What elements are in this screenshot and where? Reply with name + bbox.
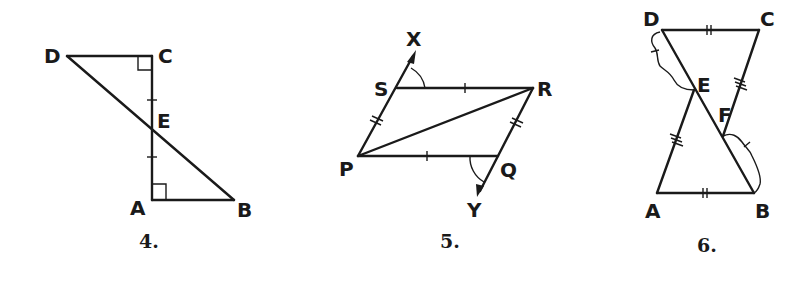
tick-mark-brace-eb xyxy=(744,142,750,147)
arrow-y-icon xyxy=(476,184,484,197)
label-y: Y xyxy=(466,198,482,222)
segment-db xyxy=(67,56,234,200)
triple-tick-cf xyxy=(734,78,747,90)
geometry-figures: D C E A B 4. X S R P Q Y 5. xyxy=(0,0,801,283)
label-c: C xyxy=(158,44,173,68)
segment-ae xyxy=(657,90,694,193)
label-p: P xyxy=(339,157,354,181)
angle-arc-pqy-icon xyxy=(470,156,484,182)
label-b: B xyxy=(237,198,252,222)
figure-number: 6. xyxy=(697,234,717,256)
arrow-x-icon xyxy=(407,50,416,64)
right-angle-a-icon xyxy=(152,184,166,200)
label-c: C xyxy=(760,7,775,31)
tick-mark-brace-df xyxy=(651,50,659,52)
label-a: A xyxy=(645,199,661,223)
label-r: R xyxy=(537,77,552,101)
brace-eb-icon xyxy=(723,134,760,193)
label-s: S xyxy=(374,77,388,101)
label-f: F xyxy=(718,103,732,127)
label-d: D xyxy=(643,7,660,31)
angle-arc-xsr-icon xyxy=(411,68,425,88)
label-d: D xyxy=(44,44,61,68)
figure-5: X S R P Q Y 5. xyxy=(339,27,552,252)
label-e: E xyxy=(157,109,171,133)
label-q: Q xyxy=(500,158,517,182)
label-b: B xyxy=(755,199,770,223)
figure-number: 4. xyxy=(139,230,159,252)
triple-tick-ae xyxy=(670,134,683,146)
segment-db xyxy=(662,30,754,193)
label-x: X xyxy=(406,27,422,51)
ray-px xyxy=(358,56,413,156)
figure-number: 5. xyxy=(440,230,460,252)
right-angle-c-icon xyxy=(138,56,152,70)
label-e: E xyxy=(697,73,711,97)
figure-6: D C E F A B 6. xyxy=(643,7,775,256)
brace-df-icon xyxy=(652,32,694,90)
label-a: A xyxy=(130,196,146,220)
figure-4: D C E A B 4. xyxy=(44,44,252,252)
